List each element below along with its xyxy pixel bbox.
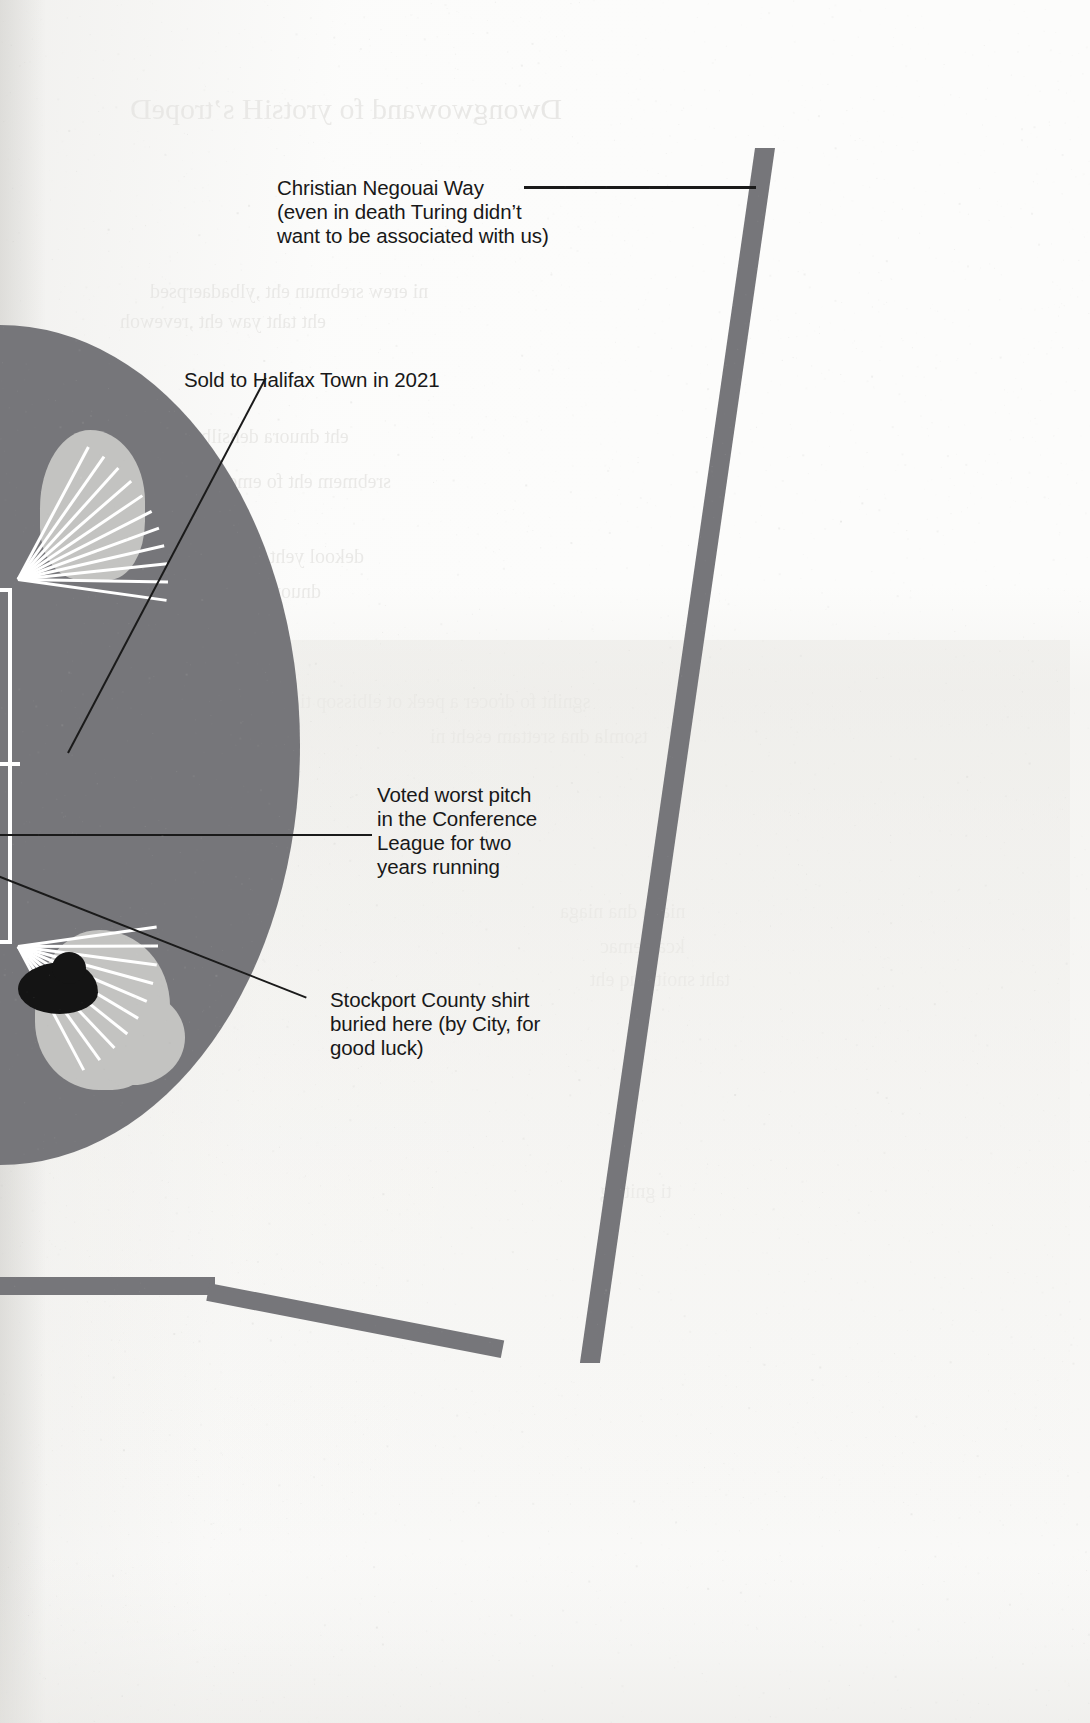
annotation-buried-shirt: Stockport County shirt buried here (by C… [330, 988, 540, 1060]
annotation-worst-pitch: Voted worst pitch in the Conference Leag… [377, 783, 537, 879]
scanned-page: Dwongwowand fo yrotsiH s’tropeD ni erew … [0, 0, 1090, 1723]
pitch-line [0, 762, 20, 766]
leader-line-negouai [524, 186, 756, 189]
annotation-negouai-way: Christian Negouai Way (even in death Tur… [277, 176, 549, 248]
annotation-halifax-sale: Sold to Halifax Town in 2021 [184, 368, 440, 392]
road-bottom-segment-a [0, 1277, 215, 1295]
stand-blob-lower-2 [80, 990, 185, 1085]
leader-line-worst-pitch [0, 834, 372, 836]
black-blob-marker-2 [52, 952, 86, 984]
pitch-line [0, 940, 12, 944]
